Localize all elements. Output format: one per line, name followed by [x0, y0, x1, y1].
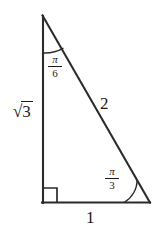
angle-label-top-numerator: π [48, 54, 62, 66]
side-label-vertical-leg-radicand: 3 [21, 101, 33, 120]
angle-label-bottom-right: π 3 [105, 166, 119, 191]
side-label-hypotenuse: 2 [100, 95, 109, 112]
side-label-vertical-leg: √3 [13, 101, 33, 120]
angle-label-bottom-right-denominator: 3 [105, 180, 119, 192]
bottom-right-angle-arc-icon [124, 180, 137, 203]
radical-sign-icon: √ [13, 103, 22, 120]
side-label-base-leg: 1 [86, 209, 95, 226]
right-angle-marker-icon [43, 188, 57, 202]
triangle-figure: √3 2 1 π 6 π 3 [0, 0, 160, 238]
hypotenuse-line [43, 16, 151, 203]
angle-label-bottom-right-numerator: π [105, 166, 119, 178]
angle-label-top-denominator: 6 [48, 68, 62, 80]
angle-label-top: π 6 [48, 54, 62, 79]
